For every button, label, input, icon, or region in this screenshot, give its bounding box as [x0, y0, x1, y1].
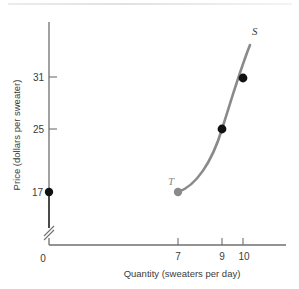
axis-break-icon: [44, 226, 54, 240]
origin-label: 0: [40, 253, 46, 264]
point-label-t: T: [168, 175, 175, 187]
y-tick-label-25: 25: [33, 124, 45, 135]
x-tick-label-7: 7: [175, 251, 181, 262]
supply-curve-s: [178, 45, 250, 192]
data-point-10-31: [239, 74, 248, 83]
data-point-price-17-axis: [45, 188, 53, 196]
x-tick-label-10: 10: [238, 251, 250, 262]
y-axis-title: Price (dollars per sweater): [11, 80, 22, 191]
chart-canvas: 31 25 17 0 7 9 10 S T Quantity (sweaters…: [0, 0, 299, 289]
data-point-t: [174, 188, 182, 196]
data-point-9-25: [218, 125, 227, 134]
curve-label-s: S: [252, 25, 258, 37]
x-tick-label-9: 9: [219, 251, 225, 262]
y-tick-label-31: 31: [33, 72, 45, 83]
y-tick-label-17: 17: [32, 187, 44, 198]
supply-curve-figure: 31 25 17 0 7 9 10 S T Quantity (sweaters…: [0, 0, 299, 289]
x-axis-title: Quantity (sweaters per day): [124, 268, 241, 279]
